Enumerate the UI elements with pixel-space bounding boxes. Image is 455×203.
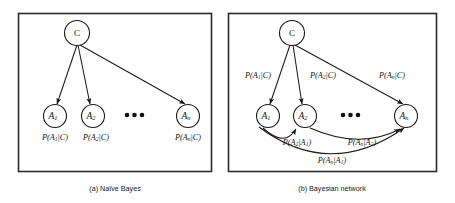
node-a1-bayesian-network: A1	[257, 105, 280, 128]
prob-label-an: P(An|C)	[174, 133, 201, 143]
edge-label-c-an: P(An|C)	[378, 71, 405, 81]
panel-border-naive-bayes	[19, 14, 212, 172]
edge-label-c-a2: P(A2|C)	[309, 71, 336, 81]
node-an-bayesian-network: An	[395, 105, 418, 128]
node-a1-naive-bayes: A1	[44, 105, 67, 128]
prob-label-a2: P(A2|C)	[82, 133, 109, 143]
class-edge-labels-bayesian-network: P(A1|C) P(A2|C) P(An|C)	[244, 71, 405, 81]
caption-bayesian-network: (b) Bayesian network	[298, 184, 366, 193]
panel-bayesian-network: C A1 A2 An P(A1|C)	[229, 14, 437, 193]
node-c-naive-bayes: C	[65, 21, 90, 46]
ellipsis-dot-3-bn	[356, 113, 361, 118]
node-c-label-bn: C	[289, 28, 295, 38]
prob-label-a1: P(A1|C)	[41, 133, 68, 143]
node-an-naive-bayes: An	[177, 105, 200, 128]
ellipsis-naive-bayes	[125, 113, 145, 118]
ellipsis-dot-3	[140, 113, 145, 118]
edge-label-c-a1: P(A1|C)	[244, 71, 271, 81]
figure-root: C A1 A2 An	[0, 0, 455, 203]
bayes-network-diagram: C A1 A2 An	[0, 0, 455, 203]
ellipsis-dot-1	[125, 113, 130, 118]
ellipsis-bayesian-network	[341, 113, 361, 118]
ellipsis-dot-1-bn	[341, 113, 346, 118]
node-c-label: C	[74, 28, 80, 38]
node-a2-bayesian-network: A2	[294, 105, 317, 128]
ellipsis-dot-2	[132, 113, 137, 118]
caption-naive-bayes: (a) Naïve Bayes	[89, 184, 141, 193]
node-a2-naive-bayes: A2	[82, 105, 105, 128]
ellipsis-dot-2-bn	[348, 113, 353, 118]
panel-border-bayesian-network	[229, 14, 437, 172]
node-c-bayesian-network: C	[280, 21, 305, 46]
panel-naive-bayes: C A1 A2 An	[19, 14, 212, 193]
